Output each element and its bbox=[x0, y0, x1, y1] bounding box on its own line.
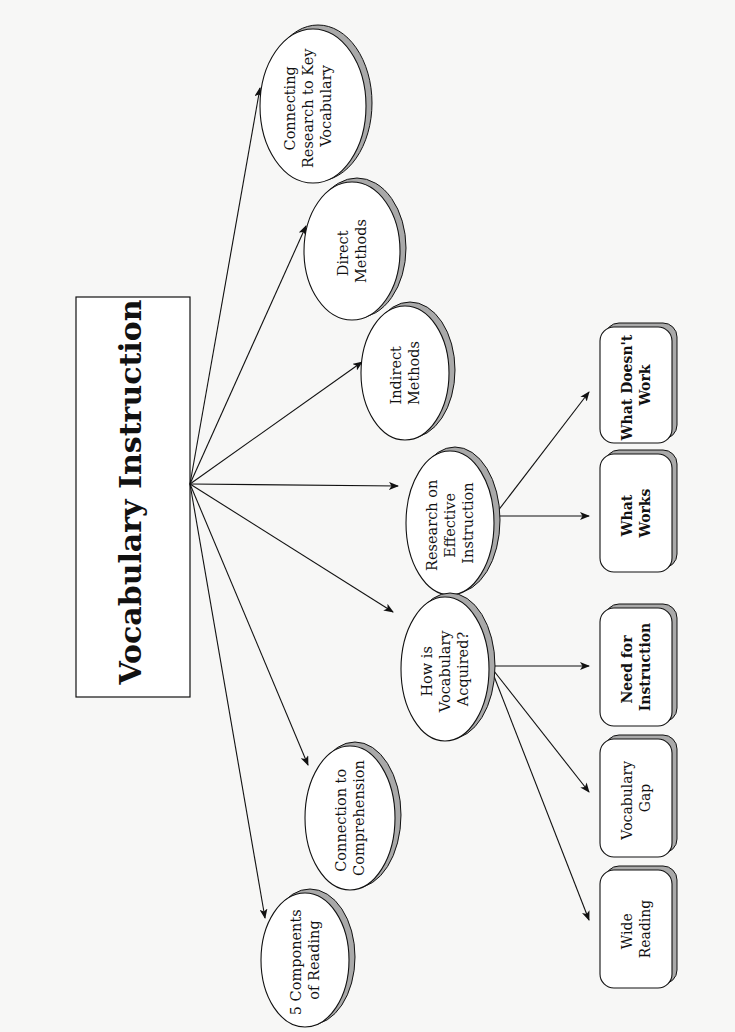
topic-connecting[interactable]: Connecting Research to Key Vocabulary bbox=[260, 25, 372, 183]
arrow-to-indirect bbox=[190, 362, 362, 484]
topic-comprehension-line-1: Connection to bbox=[333, 769, 349, 872]
subtopic-works-line-1: What bbox=[619, 494, 635, 537]
arrow-to-components bbox=[190, 484, 265, 918]
subtopic-doesnt-work[interactable]: What Doesn't Work bbox=[600, 323, 677, 443]
concept-map: Vocabulary Instruction Connecting Resear… bbox=[0, 0, 735, 1032]
topic-research-line-1: Research on bbox=[424, 480, 440, 571]
subtopic-need-line-2: Instruction bbox=[637, 623, 653, 711]
subtopic-need[interactable]: Need for Instruction bbox=[600, 604, 677, 726]
subtopic-gap-line-2: Gap bbox=[637, 784, 653, 813]
arrow-to-gap bbox=[490, 666, 589, 792]
topic-direct[interactable]: Direct Methods bbox=[304, 178, 406, 320]
topic-research[interactable]: Research on Effective Instruction bbox=[406, 447, 500, 595]
subtopic-gap-line-1: Vocabulary bbox=[619, 761, 635, 841]
subtopic-works[interactable]: What Works bbox=[600, 450, 677, 572]
topic-indirect-line-1: Indirect bbox=[388, 346, 404, 405]
topic-direct-line-1: Direct bbox=[335, 230, 351, 276]
topic-comprehension[interactable]: Connection to Comprehension bbox=[305, 742, 401, 890]
topic-comprehension-line-2: Comprehension bbox=[351, 760, 367, 876]
subtopic-doesnt-work-line-2: Work bbox=[637, 364, 653, 406]
topic-acquired-line-2: Vocabulary bbox=[437, 630, 453, 713]
svg-text:Research on Effective: Research on Effective Instruction bbox=[424, 475, 476, 571]
arrow-to-comprehension bbox=[190, 484, 308, 765]
topic-acquired-line-1: How is bbox=[419, 646, 435, 696]
concept-map-svg: Vocabulary Instruction Connecting Resear… bbox=[0, 0, 735, 1032]
arrow-to-wide bbox=[490, 666, 589, 920]
topic-connecting-line-3: Vocabulary bbox=[318, 64, 334, 147]
topic-research-line-2: Effective bbox=[442, 493, 458, 558]
topic-components-line-2: of Reading bbox=[306, 920, 322, 999]
arrow-to-doesnt-work bbox=[494, 392, 589, 516]
subtopic-need-line-1: Need for bbox=[619, 635, 635, 704]
topic-acquired-line-3: Acquired? bbox=[455, 632, 471, 708]
subtopic-works-line-2: Works bbox=[637, 488, 653, 538]
subtopic-gap[interactable]: Vocabulary Gap bbox=[600, 735, 677, 857]
sub-connectors bbox=[490, 392, 589, 920]
topic-indirect[interactable]: Indirect Methods bbox=[361, 302, 455, 440]
subtopic-wide[interactable]: Wide Reading bbox=[600, 866, 677, 988]
topic-indirect-line-2: Methods bbox=[406, 341, 422, 405]
arrow-to-research bbox=[190, 484, 398, 486]
arrow-to-direct bbox=[190, 226, 306, 484]
topic-components-line-1: 5 Components bbox=[288, 909, 304, 1015]
topic-acquired[interactable]: How is Vocabulary Acquired? bbox=[401, 593, 495, 741]
subtopic-wide-line-2: Reading bbox=[637, 900, 653, 959]
topic-direct-line-2: Methods bbox=[353, 219, 369, 283]
arrow-to-acquired bbox=[190, 484, 393, 612]
topic-research-line-3: Instruction bbox=[460, 482, 476, 563]
topic-connecting-line-2: Research to Key bbox=[300, 48, 316, 168]
central-title: Vocabulary Instruction bbox=[113, 299, 148, 685]
central-title-node: Vocabulary Instruction bbox=[76, 297, 190, 697]
arrow-to-connecting bbox=[190, 88, 260, 484]
topic-connecting-line-1: Connecting bbox=[282, 66, 298, 150]
topic-components[interactable]: 5 Components of Reading bbox=[261, 889, 355, 1027]
subtopic-wide-line-1: Wide bbox=[619, 913, 635, 949]
subtopic-doesnt-work-line-1: What Doesn't bbox=[619, 334, 635, 441]
